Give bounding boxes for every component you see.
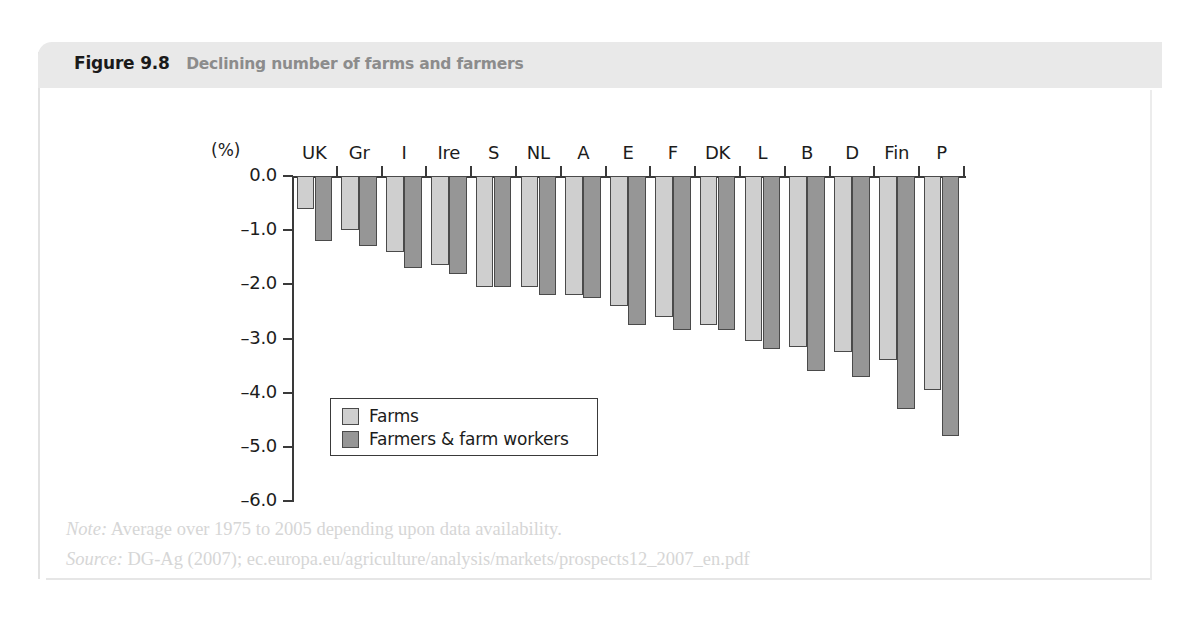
figure-note-text: Average over 1975 to 2005 depending upon…: [111, 519, 562, 539]
panel-edge-right: [1150, 90, 1152, 580]
figure-header-text: Figure 9.8 Declining number of farms and…: [74, 53, 523, 73]
legend-label-farms: Farms: [369, 406, 419, 426]
legend-item-farms: Farms: [342, 405, 419, 427]
figure-source-text: DG-Ag (2007); ec.europa.eu/agriculture/a…: [127, 549, 749, 569]
figure-note-prefix: Note:: [66, 519, 107, 539]
figure-panel: [38, 42, 1162, 587]
legend-label-farmers: Farmers & farm workers: [369, 429, 569, 449]
figure-header-band: Figure 9.8 Declining number of farms and…: [38, 42, 1162, 88]
page-root: Figure 9.8 Declining number of farms and…: [0, 0, 1198, 639]
chart-legend: Farms Farmers & farm workers: [330, 398, 598, 456]
legend-swatch-farms: [342, 408, 359, 425]
figure-source: Source: DG-Ag (2007); ec.europa.eu/agric…: [66, 549, 750, 570]
figure-source-prefix: Source:: [66, 549, 123, 569]
figure-label: Figure 9.8: [74, 53, 170, 73]
figure-note: Note: Average over 1975 to 2005 dependin…: [66, 519, 562, 540]
legend-item-farmers: Farmers & farm workers: [342, 428, 569, 450]
figure-title: Declining number of farms and farmers: [186, 55, 523, 73]
panel-edge-bottom: [46, 578, 1150, 580]
panel-edge-left: [38, 52, 40, 579]
legend-swatch-farmers: [342, 431, 359, 448]
